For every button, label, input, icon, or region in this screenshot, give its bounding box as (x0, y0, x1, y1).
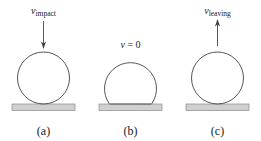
ground-surface-b (99, 104, 162, 111)
caption-a: (a) (0, 125, 87, 137)
ground-surface-c (186, 104, 249, 111)
panel-b-artwork (87, 0, 174, 141)
panel-a: vimpact (a) (0, 0, 87, 141)
ball-a (18, 52, 70, 104)
caption-b: (b) (87, 125, 174, 137)
ground-surface-a (12, 104, 75, 111)
panel-b: v = 0 (b) (87, 0, 174, 141)
panel-a-artwork (0, 0, 87, 141)
arrow-down-icon (41, 21, 46, 49)
ball-b-deformed (105, 63, 157, 104)
caption-c: (c) (174, 125, 261, 137)
panel-c-artwork (174, 0, 261, 141)
panel-c: vleaving (c) (174, 0, 261, 141)
bouncing-ball-figure: vimpact (a) v = 0 (b) vleavin (0, 0, 261, 141)
arrow-up-icon (215, 19, 220, 46)
ball-c (192, 52, 244, 104)
